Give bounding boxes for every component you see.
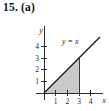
x-tick-label-4: 4: [89, 97, 93, 106]
x-tick-label-1: 1: [54, 97, 58, 106]
x-axis-name-label: x: [101, 96, 106, 105]
y-tick-label-2: 2: [35, 65, 39, 74]
curve-equation-label: y = x: [61, 37, 79, 46]
problem-number-label: 15. (a): [3, 1, 35, 14]
coordinate-plot-svg: 1 2 3 4 1 2 3 4 y x y = x: [0, 14, 109, 111]
figure-container: 15. (a) 1 2 3: [0, 0, 109, 111]
plot-area: 1 2 3 4 1 2 3 4 y x y = x: [0, 14, 109, 111]
y-axis-name-label: y: [38, 26, 43, 35]
x-tick-label-2: 2: [65, 97, 69, 106]
y-tick-label-1: 1: [35, 77, 39, 86]
y-tick-label-4: 4: [35, 42, 39, 51]
x-tick-label-3: 3: [77, 97, 81, 106]
y-tick-label-3: 3: [35, 54, 39, 63]
